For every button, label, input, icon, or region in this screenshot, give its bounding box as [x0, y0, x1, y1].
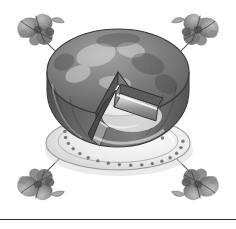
- cake-illustration: [0, 0, 236, 215]
- page-root: Grayscale drawing of a frosted round cak…: [0, 0, 236, 229]
- bottom-divider-rule: [0, 219, 236, 220]
